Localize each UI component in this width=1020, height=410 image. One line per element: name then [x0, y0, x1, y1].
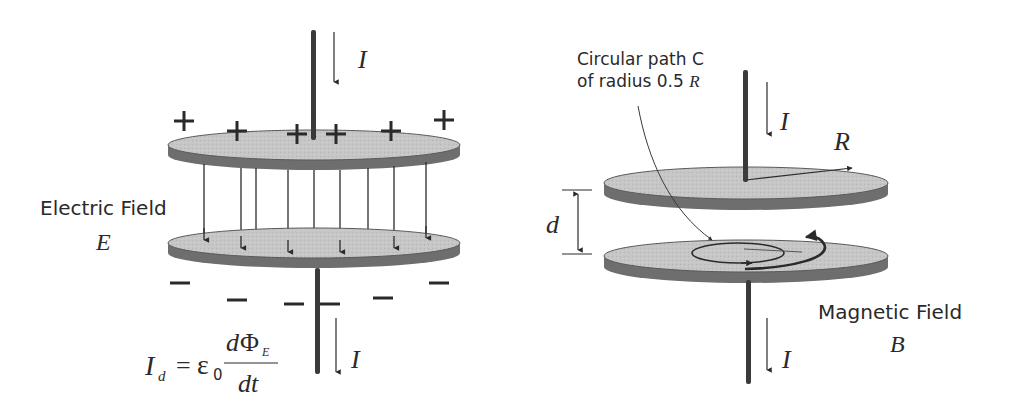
negative-charges	[170, 283, 449, 304]
capacitor-diagram: I	[0, 0, 1020, 410]
current-label-bottom-right: I	[781, 345, 792, 374]
magnetic-field-symbol: B	[890, 331, 905, 357]
bottom-wire-right	[746, 280, 751, 384]
electric-field-symbol: E	[95, 229, 111, 255]
circular-path-label-line2: of radius 0.5 R	[577, 71, 700, 91]
current-label-bottom-left: I	[350, 345, 361, 374]
svg-text:0: 0	[213, 366, 223, 384]
left-capacitor: I	[40, 30, 460, 398]
svg-text:d: d	[226, 328, 240, 357]
separation-indicator	[562, 190, 592, 254]
current-label-top-left: I	[357, 45, 368, 74]
radius-label: R	[833, 127, 850, 156]
svg-text:dt: dt	[238, 369, 259, 398]
bottom-plate-left	[168, 228, 460, 268]
circular-path-label-line1: Circular path C	[577, 49, 704, 69]
bottom-plate-right	[604, 240, 888, 283]
right-capacitor: I R Circular path C of radius 0.5 R d	[546, 49, 962, 384]
separation-label: d	[546, 210, 560, 239]
svg-text:ε: ε	[197, 349, 209, 380]
svg-text:E: E	[261, 345, 270, 359]
electric-field-label: Electric Field	[40, 196, 167, 220]
magnetic-field-label: Magnetic Field	[818, 300, 962, 324]
svg-text:d: d	[158, 368, 166, 384]
bottom-wire-left	[315, 268, 320, 374]
displacement-current-equation: I d = ε 0 d Φ E dt	[144, 328, 278, 398]
svg-text:Φ: Φ	[240, 328, 259, 357]
svg-text:I: I	[144, 350, 156, 381]
current-label-top-right: I	[779, 107, 790, 136]
svg-text:=: =	[176, 351, 191, 380]
